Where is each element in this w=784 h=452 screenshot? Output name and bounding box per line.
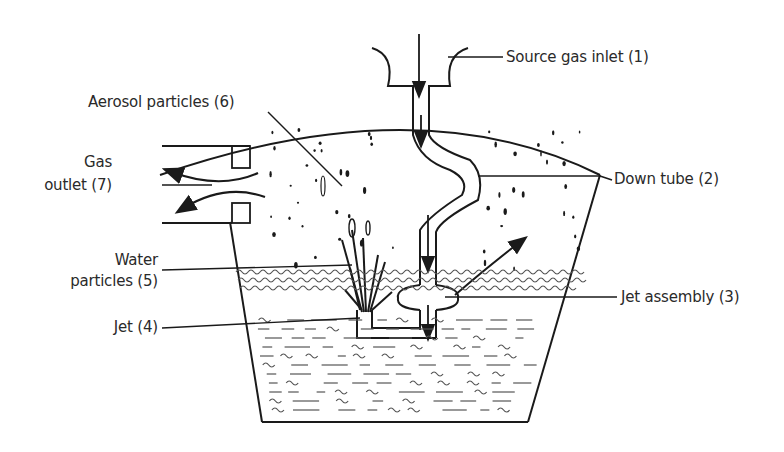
aerosol-particle (314, 256, 317, 259)
water-hatch (498, 408, 510, 412)
label-source-gas-inlet: Source gas inlet (1) (506, 48, 649, 66)
aerosol-particle (513, 151, 517, 156)
water-hatch (280, 354, 292, 358)
aerosol-particle (363, 187, 366, 194)
vessel-lid (160, 130, 600, 175)
aerosol-particle (290, 185, 292, 187)
water-hatch (396, 318, 408, 322)
aerosol-particle (346, 170, 350, 177)
aerosol-particle (298, 128, 301, 132)
aerosol-particle (288, 217, 290, 220)
outlet-arrow-lower (184, 192, 265, 208)
water-hatch (467, 381, 479, 385)
aerosol-particle (483, 249, 486, 253)
water-hatch (438, 381, 450, 385)
outlet-arrow-upper (172, 172, 258, 181)
water-surface-wave (238, 278, 586, 282)
jet (357, 310, 436, 338)
aerosol-particle (512, 187, 515, 193)
label-water-particles-line1: Water (50, 251, 158, 269)
aerosol-particle (494, 142, 497, 148)
aerosol-particle (498, 192, 500, 198)
water-hatch (263, 363, 275, 367)
vessel-left-wall (230, 222, 262, 422)
aerosol-particle (271, 131, 273, 134)
aerosol-particle (552, 130, 554, 135)
aerosol-particle (572, 216, 574, 219)
water-hatch (454, 345, 466, 349)
aerosol-particle (302, 225, 304, 227)
aerosol-particle (370, 143, 373, 147)
aerosol-particle (321, 149, 323, 152)
aerosol-particle (315, 179, 317, 182)
water-surface-wave (236, 270, 584, 274)
aerosol-particle (561, 141, 563, 143)
aerosol-particle (370, 136, 372, 140)
water-hatch (432, 318, 444, 322)
aerosol-particle (269, 171, 271, 177)
aerosol-particle (360, 240, 363, 246)
water-hatch (382, 354, 394, 358)
water-hatch (352, 345, 364, 349)
aerosol-particle (319, 142, 322, 146)
label-gas-outlet-line1: Gas (60, 153, 112, 171)
water-hatch (410, 345, 422, 349)
water-hatch (492, 372, 504, 376)
water-hatch (498, 345, 510, 349)
aerosol-particle (486, 206, 490, 211)
aerosol-particle (338, 238, 341, 241)
water-hatch (475, 390, 487, 394)
aerosol-particle (484, 260, 486, 266)
water-hatch (286, 381, 298, 385)
aerosol-particle (272, 232, 276, 237)
water-hatch (408, 408, 420, 412)
label-gas-outlet-line2: outlet (7) (40, 176, 112, 194)
water-body (236, 270, 586, 412)
water-hatch (259, 318, 271, 322)
aerosol-particle (579, 130, 581, 133)
aerosol-particle (488, 131, 490, 134)
aerosol-particle (562, 161, 565, 166)
aerosol-particle (574, 235, 576, 239)
aerosol-particle (563, 211, 565, 216)
water-hatch (327, 327, 339, 331)
water-hatch (431, 372, 443, 376)
water-hatch (403, 399, 415, 403)
aerosol-particle (273, 146, 275, 151)
source-gas-inlet (372, 34, 468, 110)
aerosol-particle (340, 169, 343, 176)
aerosol-particle (564, 184, 567, 189)
water-hatch (269, 399, 281, 403)
aerosol-particle (504, 208, 507, 215)
aerosol-particle (522, 191, 525, 197)
aerosol-particle (270, 216, 272, 218)
aerosol-particle (540, 150, 542, 156)
aerosol-particle (348, 214, 351, 218)
water-hatch (272, 408, 284, 412)
aerosol-generator-diagram (0, 0, 784, 452)
aerosol-particle (297, 202, 299, 204)
label-aerosol-particles: Aerosol particles (6) (88, 93, 234, 111)
water-hatch (473, 336, 485, 340)
aerosol-particle (306, 164, 309, 166)
aerosol-particle (335, 210, 338, 214)
water-hatch (306, 354, 318, 358)
water-spray (321, 176, 392, 312)
aerosol-particle (294, 262, 298, 269)
aerosol-particle (577, 246, 580, 251)
aerosol-particle (537, 143, 540, 147)
aerosol-particle (500, 225, 503, 227)
water-hatch (366, 390, 378, 394)
label-water-particles-line2: particles (5) (50, 272, 158, 290)
water-hatch (468, 372, 480, 376)
water-hatch (335, 390, 347, 394)
label-jet: Jet (4) (50, 318, 158, 336)
label-down-tube: Down tube (2) (614, 170, 719, 188)
water-hatch (388, 408, 400, 412)
water-hatch (336, 399, 348, 403)
down-tube (413, 110, 480, 285)
aerosol-particle (392, 246, 394, 249)
gas-outlet-arrows (172, 172, 265, 208)
water-hatch (410, 381, 422, 385)
aerosol-particle (368, 132, 371, 136)
